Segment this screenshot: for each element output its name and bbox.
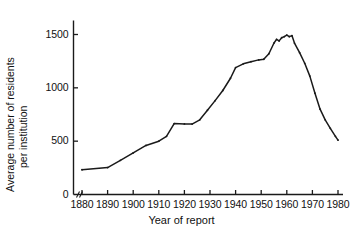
data-point-marker <box>107 167 109 169</box>
data-point-marker <box>319 108 321 110</box>
data-point-marker <box>281 37 283 39</box>
x-axis-title: Year of report <box>0 214 363 226</box>
data-point-marker <box>335 135 337 137</box>
data-point-marker <box>81 169 83 171</box>
data-point-marker <box>309 75 311 77</box>
data-point-marker <box>276 38 278 40</box>
data-point-marker <box>273 42 275 44</box>
data-series-line <box>82 35 338 170</box>
data-point-marker <box>314 92 316 94</box>
data-point-marker <box>258 59 260 61</box>
x-tick-label: 1980 <box>322 198 354 210</box>
data-point-marker <box>191 123 193 125</box>
data-point-marker <box>278 40 280 42</box>
data-point-marker <box>294 42 296 44</box>
data-point-marker <box>263 58 265 60</box>
data-point-marker <box>286 34 288 36</box>
data-point-marker <box>337 139 339 141</box>
data-point-marker <box>291 35 293 37</box>
data-point-marker <box>166 135 168 137</box>
data-point-marker <box>299 52 301 54</box>
data-point-marker <box>132 152 134 154</box>
y-tick-label: 1000 <box>29 81 69 93</box>
data-point-marker <box>145 145 147 147</box>
data-point-marker <box>288 36 290 38</box>
data-point-marker <box>207 109 209 111</box>
data-point-marker <box>304 62 306 64</box>
data-point-marker <box>158 140 160 142</box>
data-point-marker <box>235 67 237 69</box>
data-point-marker <box>184 123 186 125</box>
data-point-marker <box>199 119 201 121</box>
data-point-marker <box>120 159 122 161</box>
data-point-marker <box>268 53 270 55</box>
data-point-marker <box>283 36 285 38</box>
data-point-marker <box>222 90 224 92</box>
data-point-marker <box>250 61 252 63</box>
data-point-marker <box>329 127 331 129</box>
data-point-marker <box>230 77 232 79</box>
data-point-marker <box>242 63 244 65</box>
data-point-marker <box>173 123 175 125</box>
chart-container: Aᴠerage number of residents per institut… <box>0 0 363 238</box>
data-point-marker <box>214 100 216 102</box>
data-point-marker <box>324 119 326 121</box>
y-tick-label: 0 <box>29 188 69 200</box>
y-tick-label: 500 <box>29 134 69 146</box>
y-tick-label: 1500 <box>29 28 69 40</box>
